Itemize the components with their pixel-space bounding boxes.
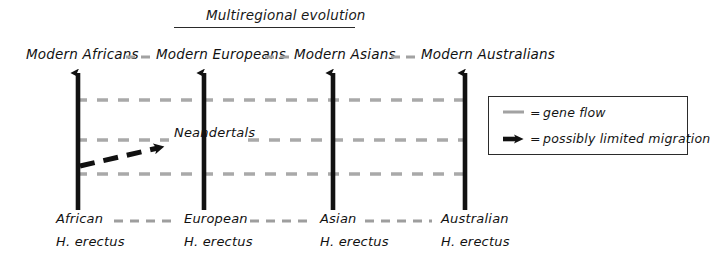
limited-migration-arrow: [80, 148, 158, 166]
diagram-canvas: Multiregional evolution Modern Africans …: [0, 0, 723, 267]
gene-flow-horizontal-lines: [76, 100, 465, 174]
diagram-graphics-layer: [0, 0, 723, 267]
